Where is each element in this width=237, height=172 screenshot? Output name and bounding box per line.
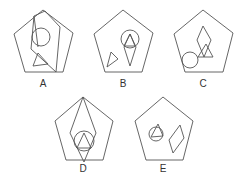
- triangle-shape: [107, 52, 118, 67]
- option-b-figure: [94, 10, 153, 72]
- circle-shape: [32, 28, 50, 46]
- diamond-shape: [124, 34, 136, 66]
- circle-shape: [182, 52, 198, 68]
- diamond-shape: [70, 97, 96, 162]
- triangle-shape: [77, 133, 91, 148]
- option-label-a: A: [40, 79, 47, 89]
- option-label-e: E: [160, 164, 167, 172]
- triangle-shape: [33, 53, 48, 66]
- pentagon-outline: [14, 10, 73, 72]
- option-label-b: B: [120, 79, 127, 89]
- option-e-figure: [135, 97, 193, 160]
- circle-shape: [149, 127, 163, 141]
- triangle-shape: [198, 44, 213, 57]
- triangle-shape: [151, 124, 163, 137]
- line-shape: [34, 16, 38, 47]
- option-label-d: D: [79, 164, 86, 172]
- pentagon-outline: [135, 97, 193, 160]
- option-c-figure: [174, 10, 233, 72]
- option-a-figure: [14, 10, 73, 72]
- pentagon-outline: [94, 10, 153, 72]
- option-label-c: C: [199, 79, 206, 89]
- diamond-shape: [197, 26, 211, 57]
- circle-shape: [121, 30, 139, 48]
- diamond-shape: [169, 125, 184, 153]
- option-d-figure: [55, 97, 113, 162]
